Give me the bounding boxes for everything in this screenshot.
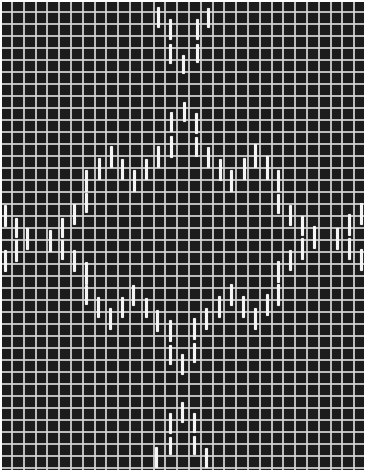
warp-float	[277, 284, 280, 306]
warp-float	[15, 218, 18, 238]
warp-float	[170, 112, 173, 132]
warp-float	[15, 240, 18, 262]
warp-float	[49, 230, 52, 252]
warp-float	[230, 170, 233, 192]
warp-float	[289, 250, 292, 271]
warp-float	[301, 238, 304, 260]
warp-float	[157, 7, 160, 28]
warp-float	[110, 146, 113, 168]
warp-float	[195, 137, 198, 157]
warp-float	[121, 297, 124, 318]
warp-float	[97, 297, 100, 318]
warp-float	[155, 447, 158, 468]
warp-float	[73, 250, 76, 272]
warp-float	[193, 343, 196, 363]
warp-float	[348, 214, 351, 236]
warp-float	[348, 238, 351, 260]
warp-float	[254, 308, 257, 330]
warp-float	[169, 413, 172, 434]
woven-grid-pattern: Woven grid pattern with white warp float…	[2, 2, 364, 470]
warp-float	[169, 19, 172, 40]
warp-float	[133, 170, 136, 192]
warp-float	[85, 193, 88, 213]
warp-float	[336, 228, 339, 250]
warp-float	[193, 318, 196, 340]
warp-float	[170, 136, 173, 158]
warp-float	[98, 158, 101, 180]
warp-float	[313, 226, 316, 249]
warp-float	[289, 205, 292, 226]
warp-float	[196, 19, 199, 40]
warp-float	[157, 146, 160, 168]
warp-float	[85, 170, 88, 192]
warp-float	[145, 159, 148, 180]
warp-float	[182, 55, 185, 74]
warp-float	[301, 216, 304, 236]
warp-float	[193, 413, 196, 433]
warp-float	[132, 285, 135, 306]
warp-float	[181, 354, 184, 375]
warp-float	[195, 113, 198, 134]
warp-float	[277, 261, 280, 283]
warp-float	[169, 437, 172, 455]
warp-float	[196, 44, 199, 63]
warp-float	[169, 345, 172, 365]
warp-float	[73, 204, 76, 225]
warp-float	[61, 240, 64, 260]
warp-float	[193, 436, 196, 455]
warp-float	[277, 194, 280, 214]
warp-float	[169, 320, 172, 342]
warp-float	[243, 158, 246, 180]
warp-float	[218, 296, 221, 318]
warp-float	[61, 218, 64, 238]
warp-float	[121, 159, 124, 180]
warp-float	[85, 262, 88, 285]
warp-float	[156, 310, 159, 332]
warp-float	[4, 205, 7, 227]
warp-float	[205, 448, 208, 468]
warp-float	[181, 402, 184, 423]
warp-float	[145, 298, 148, 318]
warp-float	[109, 308, 112, 330]
warp-float	[26, 228, 29, 250]
warp-float	[266, 294, 269, 316]
warp-float	[205, 308, 208, 330]
warp-float	[360, 203, 363, 225]
warp-float	[266, 156, 269, 180]
warp-float	[254, 144, 257, 168]
warp-float	[183, 102, 186, 122]
warp-float	[242, 296, 245, 318]
warp-float	[219, 159, 222, 181]
warp-float	[85, 285, 88, 305]
warp-float	[207, 8, 210, 28]
warp-float	[207, 147, 210, 168]
warp-float	[4, 250, 7, 272]
warp-float	[230, 284, 233, 306]
warp-float	[169, 44, 172, 64]
warp-float	[277, 170, 280, 192]
warp-float	[360, 249, 363, 271]
